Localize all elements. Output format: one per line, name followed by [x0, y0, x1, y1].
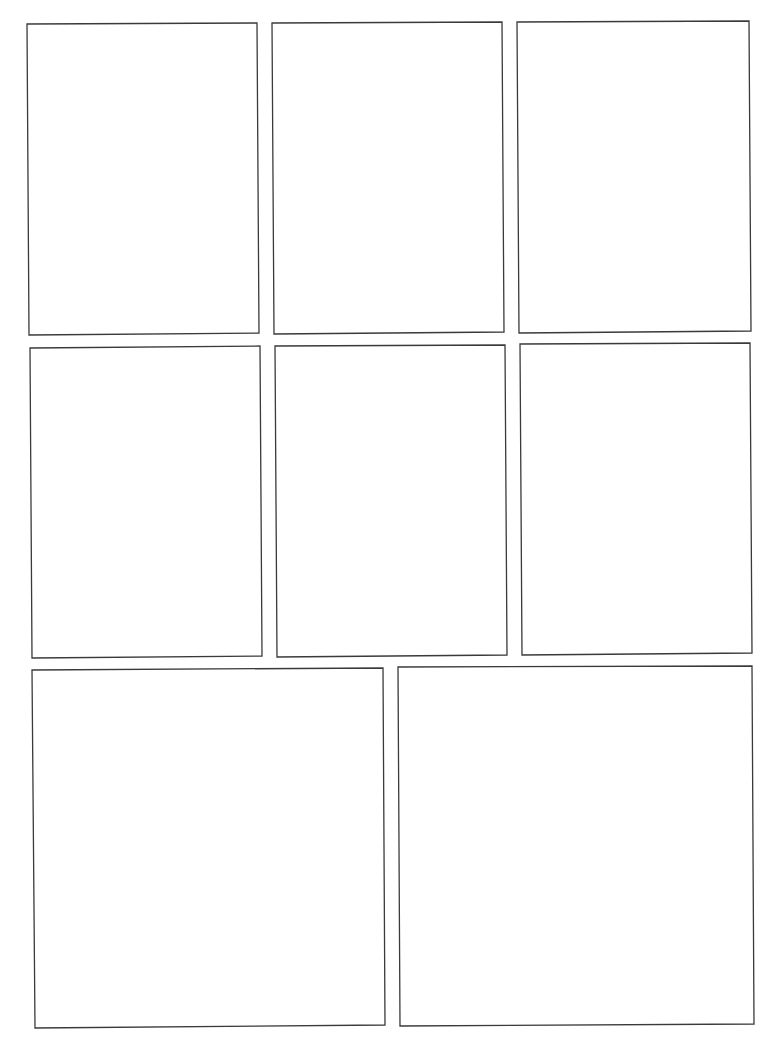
panel-grid: [0, 0, 768, 1053]
comic-panel-3: [517, 21, 751, 333]
comic-panel-4: [30, 346, 262, 658]
comic-panel-2: [272, 22, 504, 334]
comic-panel-7: [32, 668, 385, 1028]
comic-panel-5: [275, 345, 507, 657]
comic-panel-6: [520, 343, 752, 655]
comic-page: [0, 0, 768, 1053]
comic-panel-8: [398, 666, 754, 1026]
comic-panel-1: [27, 23, 259, 335]
